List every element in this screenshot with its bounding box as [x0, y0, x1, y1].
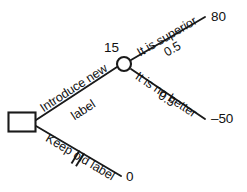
terminal-payoff-keep-old-label: 0	[126, 170, 133, 184]
decision-tree-diagram: 15 Introduce new label Keep old label It…	[0, 0, 247, 192]
chance-node-emv-label: 15	[104, 41, 119, 55]
terminal-payoff-superior: 80	[211, 10, 226, 24]
terminal-payoff-no-better: –50	[211, 112, 233, 126]
tree-graphics	[0, 0, 247, 192]
chance-node-circle[interactable]	[117, 57, 131, 71]
decision-node-square[interactable]	[9, 113, 36, 132]
